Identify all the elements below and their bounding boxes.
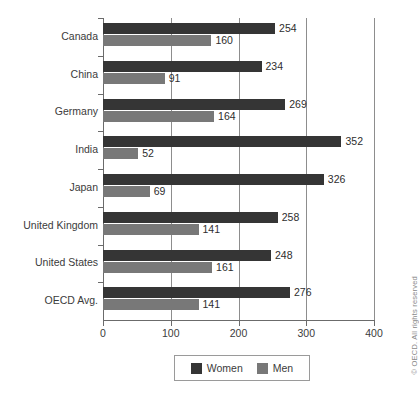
bar-women-oecd-avg bbox=[103, 287, 290, 298]
category-label-united-states: United States bbox=[35, 256, 98, 268]
value-label-women-canada: 254 bbox=[279, 23, 297, 34]
bar-men-oecd-avg bbox=[103, 299, 199, 310]
x-tick-300 bbox=[306, 320, 307, 326]
value-label-men-japan: 69 bbox=[154, 186, 166, 197]
bar-men-united-kingdom bbox=[103, 224, 199, 235]
legend-label-men: Men bbox=[273, 362, 293, 374]
value-label-women-oecd-avg: 276 bbox=[294, 287, 312, 298]
value-label-men-united-states: 161 bbox=[216, 262, 234, 273]
x-tick-400 bbox=[374, 320, 375, 326]
x-tick-0 bbox=[103, 320, 104, 326]
legend-label-women: Women bbox=[207, 362, 243, 374]
bar-men-germany bbox=[103, 111, 214, 122]
bar-women-canada bbox=[103, 23, 275, 34]
chart-legend: Women Men bbox=[174, 355, 310, 381]
plot-area: 2541602349126916435252326692581412481612… bbox=[103, 18, 374, 320]
legend-item-women: Women bbox=[191, 362, 243, 374]
copyright-notice: © OECD. All rights reserved bbox=[410, 276, 419, 374]
category-label-oecd-avg: OECD Avg. bbox=[45, 294, 99, 306]
value-label-men-china: 91 bbox=[169, 73, 181, 84]
value-label-women-germany: 269 bbox=[289, 99, 307, 110]
value-label-women-china: 234 bbox=[266, 61, 284, 72]
bar-women-united-kingdom bbox=[103, 212, 278, 223]
value-label-men-india: 52 bbox=[142, 148, 154, 159]
bar-men-united-states bbox=[103, 262, 212, 273]
value-label-women-united-kingdom: 258 bbox=[282, 212, 300, 223]
bar-women-united-states bbox=[103, 250, 271, 261]
x-tick-label-300: 300 bbox=[286, 327, 326, 339]
bar-women-india bbox=[103, 136, 341, 147]
value-label-women-united-states: 248 bbox=[275, 250, 293, 261]
bar-men-india bbox=[103, 148, 138, 159]
category-label-germany: Germany bbox=[55, 105, 98, 117]
x-tick-label-0: 0 bbox=[83, 327, 123, 339]
gridline-400 bbox=[374, 18, 375, 320]
legend-swatch-men-icon bbox=[257, 363, 268, 374]
value-label-men-oecd-avg: 141 bbox=[203, 299, 221, 310]
x-tick-label-200: 200 bbox=[219, 327, 259, 339]
x-tick-100 bbox=[171, 320, 172, 326]
value-label-men-canada: 160 bbox=[215, 35, 233, 46]
x-tick-label-400: 400 bbox=[354, 327, 394, 339]
category-label-india: India bbox=[75, 143, 98, 155]
value-label-women-japan: 326 bbox=[328, 174, 346, 185]
legend-item-men: Men bbox=[257, 362, 293, 374]
category-label-united-kingdom: United Kingdom bbox=[23, 219, 98, 231]
legend-swatch-women-icon bbox=[191, 363, 202, 374]
category-label-canada: Canada bbox=[61, 30, 98, 42]
bar-women-germany bbox=[103, 99, 285, 110]
value-label-men-united-kingdom: 141 bbox=[203, 224, 221, 235]
bar-men-china bbox=[103, 73, 165, 84]
category-label-japan: Japan bbox=[69, 181, 98, 193]
x-tick-label-100: 100 bbox=[151, 327, 191, 339]
value-label-men-germany: 164 bbox=[218, 111, 236, 122]
bar-women-china bbox=[103, 61, 262, 72]
category-label-china: China bbox=[71, 68, 98, 80]
bar-men-canada bbox=[103, 35, 211, 46]
bar-men-japan bbox=[103, 186, 150, 197]
bar-women-japan bbox=[103, 174, 324, 185]
value-label-women-india: 352 bbox=[345, 136, 363, 147]
x-tick-200 bbox=[239, 320, 240, 326]
